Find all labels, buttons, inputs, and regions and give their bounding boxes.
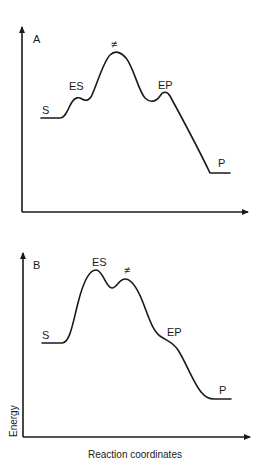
- energy-diagram: A S ES ≠ EP P B S ES ≠ EP P Energy React…: [0, 0, 267, 461]
- panel-a-energy-curve: [41, 52, 230, 173]
- panel-b-label-s: S: [42, 329, 49, 341]
- panel-b-label-ep: EP: [167, 326, 182, 338]
- panel-b-tag: B: [33, 259, 40, 271]
- panel-b-label-p: P: [219, 384, 226, 396]
- panel-a: A S ES ≠ EP P: [22, 27, 248, 212]
- panel-b-label-es: ES: [92, 256, 107, 268]
- panel-a-label-ep: EP: [158, 79, 173, 91]
- panel-b: B S ES ≠ EP P Energy Reaction coordinate…: [8, 253, 250, 460]
- panel-b-label-ts: ≠: [124, 264, 130, 276]
- panel-a-label-ts: ≠: [111, 38, 117, 50]
- panel-a-tag: A: [33, 33, 41, 45]
- panel-a-label-es: ES: [69, 80, 84, 92]
- panel-a-label-p: P: [218, 157, 225, 169]
- panel-b-x-label: Reaction coordinates: [88, 449, 182, 460]
- panel-b-energy-curve: [42, 270, 231, 399]
- panel-a-label-s: S: [42, 104, 49, 116]
- panel-b-y-label: Energy: [8, 405, 19, 437]
